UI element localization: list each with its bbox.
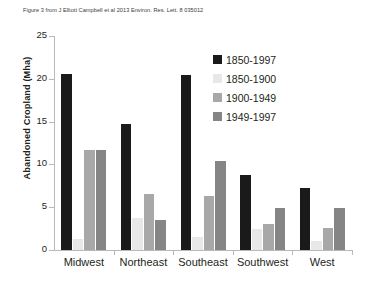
bar xyxy=(275,208,286,250)
legend-item: 1900-1949 xyxy=(213,88,276,107)
bar xyxy=(61,74,72,250)
legend-label: 1850-1997 xyxy=(226,54,276,66)
y-axis-tick-label: 0 xyxy=(0,244,47,254)
bar xyxy=(263,224,274,250)
bar xyxy=(181,75,192,250)
bar xyxy=(96,150,107,250)
bar xyxy=(215,161,226,250)
bar xyxy=(121,124,132,250)
bar xyxy=(192,237,203,250)
bar xyxy=(144,194,155,250)
figure-container: Figure 3 from J Elliott Campbell et al 2… xyxy=(0,0,366,290)
legend-swatch-icon xyxy=(213,112,222,121)
bar xyxy=(334,208,345,250)
bar xyxy=(84,150,95,250)
legend-item: 1850-1997 xyxy=(213,50,276,69)
x-axis-category-label: Southeast xyxy=(173,256,233,268)
x-axis-category-label: Midwest xyxy=(54,256,114,268)
legend-label: 1900-1949 xyxy=(226,92,276,104)
legend-label: 1949-1997 xyxy=(226,111,276,123)
x-axis-group-separator xyxy=(114,250,115,255)
bar xyxy=(252,229,263,250)
legend-swatch-icon xyxy=(213,74,222,83)
x-axis-group-separator xyxy=(352,250,353,255)
bar xyxy=(73,239,84,250)
y-axis-title: Abandoned Cropland (Mha) xyxy=(22,18,32,218)
x-axis-line xyxy=(54,250,353,251)
legend-item: 1949-1997 xyxy=(213,107,276,126)
x-axis-group-separator xyxy=(292,250,293,255)
legend-swatch-icon xyxy=(213,93,222,102)
x-axis-category-label: Northeast xyxy=(114,256,174,268)
legend: 1850-19971850-19001900-19491949-1997 xyxy=(213,50,276,126)
bar xyxy=(300,188,311,250)
legend-label: 1850-1900 xyxy=(226,73,276,85)
legend-item: 1850-1900 xyxy=(213,69,276,88)
x-axis-category-label: West xyxy=(292,256,352,268)
bar xyxy=(323,228,334,250)
figure-caption: Figure 3 from J Elliott Campbell et al 2… xyxy=(23,7,203,13)
plot-area xyxy=(54,36,352,250)
bar xyxy=(155,220,166,250)
x-axis-group-separator xyxy=(233,250,234,255)
bar xyxy=(132,218,143,250)
legend-swatch-icon xyxy=(213,55,222,64)
x-axis-category-label: Southwest xyxy=(233,256,293,268)
bar xyxy=(204,196,215,250)
y-axis-tick xyxy=(49,250,54,251)
bar xyxy=(240,175,251,250)
bar xyxy=(311,241,322,250)
x-axis-group-separator xyxy=(173,250,174,255)
